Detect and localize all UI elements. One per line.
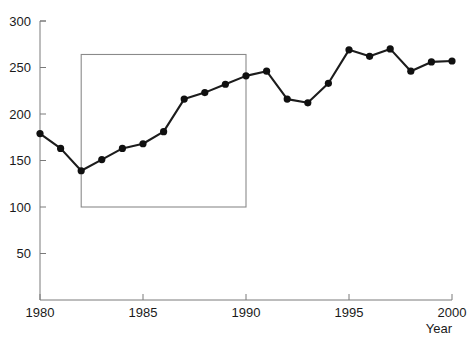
data-point [448, 57, 455, 64]
data-point [428, 58, 435, 65]
y-tick-label: 200 [9, 107, 31, 122]
data-point [201, 89, 208, 96]
data-point [181, 96, 188, 103]
data-point [160, 128, 167, 135]
y-tick-label: 150 [9, 153, 31, 168]
data-point [304, 99, 311, 106]
chart-container: 5010015020025030019801985199019952000 Ye… [0, 0, 476, 353]
data-point [222, 81, 229, 88]
data-point [78, 167, 85, 174]
x-tick-label: 2000 [438, 305, 467, 320]
data-point [407, 68, 414, 75]
x-axis-ticks [40, 294, 452, 300]
data-point [57, 145, 64, 152]
x-axis-title: Year [426, 321, 453, 336]
x-tick-label: 1995 [335, 305, 364, 320]
data-point [345, 46, 352, 53]
data-point [387, 45, 394, 52]
data-point [36, 130, 43, 137]
y-tick-label: 250 [9, 60, 31, 75]
x-tick-label: 1985 [129, 305, 158, 320]
x-tick-label: 1990 [232, 305, 261, 320]
x-tick-label: 1980 [26, 305, 55, 320]
line-chart: 5010015020025030019801985199019952000 Ye… [0, 0, 476, 353]
y-tick-label: 50 [17, 246, 31, 261]
y-tick-label: 300 [9, 14, 31, 29]
data-point [98, 156, 105, 163]
data-point [119, 145, 126, 152]
y-tick-label: 100 [9, 200, 31, 215]
data-point [325, 80, 332, 87]
data-point [284, 96, 291, 103]
data-point [139, 140, 146, 147]
data-point [366, 53, 373, 60]
data-point [242, 72, 249, 79]
data-point [263, 68, 270, 75]
